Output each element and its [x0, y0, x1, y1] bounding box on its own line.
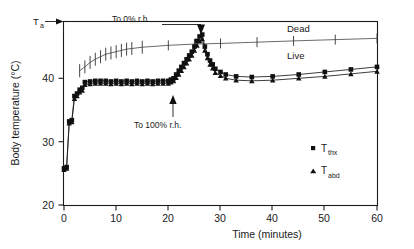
legend-sublabel-thx: thx — [328, 149, 338, 156]
dead-series-label: Dead — [287, 23, 310, 34]
live-series-label: Live — [287, 50, 304, 61]
legend-sublabel-abd: abd — [328, 172, 340, 179]
y-axis-title: Body temperature (°C) — [9, 60, 21, 165]
legend-square-marker-icon — [311, 146, 315, 150]
x-axis-title: Time (minutes) — [232, 228, 302, 240]
x-tick-label-40: 40 — [266, 212, 278, 224]
x-tick-label-30: 30 — [214, 212, 226, 224]
data-point-marker-square — [349, 67, 354, 72]
y-tick-label-30: 30 — [42, 136, 54, 148]
ta-label: T — [33, 16, 39, 27]
ta-sublabel: a — [40, 22, 44, 29]
x-tick-label-60: 60 — [371, 212, 383, 224]
x-tick-label-20: 20 — [162, 212, 174, 224]
to-dry-label: To 0% r.h. — [112, 14, 150, 24]
body-temperature-chart: 40 30 20 Body temperature (°C) 0 10 20 3… — [0, 0, 414, 249]
x-tick-label-50: 50 — [318, 212, 330, 224]
x-tick-label-0: 0 — [61, 212, 67, 224]
data-point-marker-square — [375, 65, 380, 70]
legend-label-abd: T — [321, 165, 327, 176]
to-humid-label: To 100% r.h. — [134, 120, 181, 130]
y-tick-label-40: 40 — [42, 72, 54, 84]
legend-label-thx: T — [321, 143, 327, 154]
y-tick-label-20: 20 — [42, 199, 54, 211]
data-point-marker-square — [323, 70, 328, 75]
x-tick-label-10: 10 — [110, 212, 122, 224]
